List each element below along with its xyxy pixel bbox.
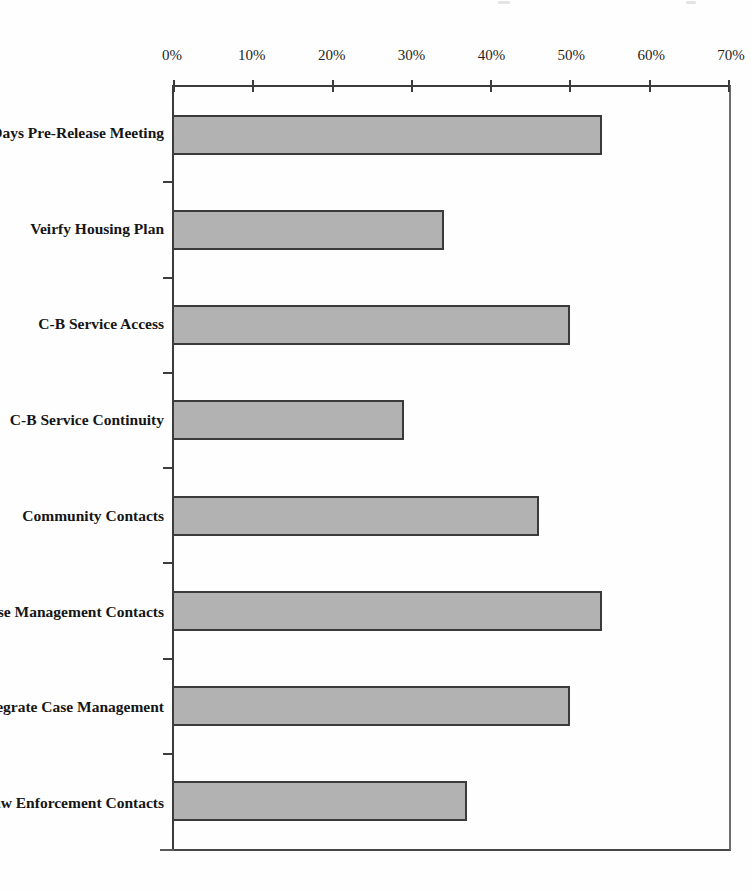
x-axis-tick-labels: 0%10%20%30%40%50%60%70% <box>172 47 731 71</box>
y-axis-tick-mark <box>163 372 174 374</box>
x-axis-tick-label: 50% <box>558 47 586 64</box>
x-axis-tick-mark <box>728 80 730 92</box>
category-label: Community Contacts <box>22 468 164 564</box>
bar <box>174 781 467 821</box>
x-axis-tick-label: 60% <box>637 47 665 64</box>
category-label: 3 Case Management Contacts <box>0 564 164 660</box>
x-axis-tick-label: 20% <box>318 47 346 64</box>
x-axis-tick-label: 0% <box>162 47 182 64</box>
bar-row <box>174 563 729 658</box>
x-axis-tick-label: 10% <box>238 47 266 64</box>
bar <box>174 496 539 536</box>
y-axis-tick-mark <box>163 181 174 183</box>
cropped-title-artifact <box>498 1 510 4</box>
x-axis-tick-label: 70% <box>717 47 745 64</box>
y-axis-tick-mark <box>163 467 174 469</box>
x-axis-tick-mark <box>173 80 175 92</box>
y-axis-tick-mark <box>163 753 174 755</box>
bar-row <box>174 87 729 182</box>
bar <box>174 210 444 250</box>
y-axis-tick-mark <box>163 277 174 279</box>
category-label: C-B Service Access <box>38 277 164 373</box>
category-label: Integrate Case Management <box>0 660 164 756</box>
bar-row <box>174 754 729 849</box>
category-label: Veirfy Housing Plan <box>30 181 164 277</box>
y-axis-tick-mark <box>163 562 174 564</box>
x-axis-tick-mark <box>569 80 571 92</box>
bar <box>174 591 602 631</box>
bar <box>174 115 602 155</box>
x-axis-tick-mark <box>490 80 492 92</box>
bar-row <box>174 468 729 563</box>
bar-row <box>174 182 729 277</box>
category-labels: 60 Days Pre-Release MeetingVeirfy Housin… <box>0 85 164 851</box>
bar-row <box>174 278 729 373</box>
x-axis-tick-mark <box>252 80 254 92</box>
category-label: Law Enforcement Contacts <box>0 755 164 851</box>
axis-overhang <box>160 849 174 851</box>
x-axis-tick-label: 30% <box>398 47 426 64</box>
bar <box>174 686 570 726</box>
x-axis-tick-mark <box>332 80 334 92</box>
bar-row <box>174 373 729 468</box>
plot-area <box>172 85 731 851</box>
cropped-title-artifact <box>686 1 696 4</box>
y-axis-tick-mark <box>163 658 174 660</box>
x-axis-tick-label: 40% <box>478 47 506 64</box>
category-label: 60 Days Pre-Release Meeting <box>0 85 164 181</box>
bar-rows <box>174 87 729 849</box>
bar <box>174 305 570 345</box>
bar-chart: 0%10%20%30%40%50%60%70% 60 Days Pre-Rele… <box>0 0 751 892</box>
x-axis-tick-mark <box>411 80 413 92</box>
bar <box>174 400 404 440</box>
x-axis-tick-mark <box>649 80 651 92</box>
category-label: C-B Service Continuity <box>10 372 164 468</box>
bar-row <box>174 659 729 754</box>
